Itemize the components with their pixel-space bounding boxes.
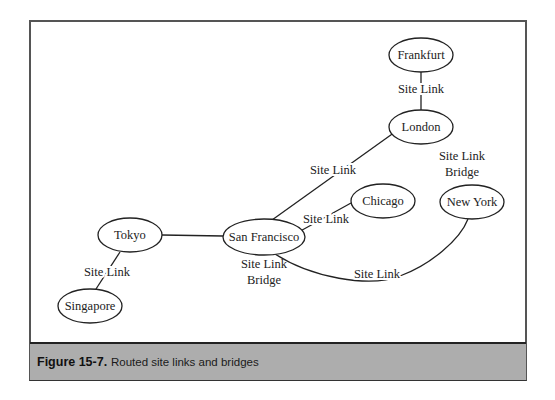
label-new-york: New York (447, 195, 498, 209)
edge-label-sf-london: Site Link (310, 163, 357, 177)
label-london: London (402, 120, 442, 134)
label-tokyo: Tokyo (114, 228, 146, 242)
label-singapore: Singapore (65, 299, 116, 313)
figure-caption-bar: Figure 15-7. Routed site links and bridg… (30, 342, 526, 380)
edge-label-tokyo-singapore: Site Link (84, 265, 131, 279)
london-bridge-label-line2: Bridge (445, 165, 479, 179)
edge-label-frankfurt-london: Site Link (398, 82, 445, 96)
label-san-francisco: San Francisco (229, 230, 299, 244)
edge-label-sf-newyork: Site Link (354, 267, 401, 281)
london-bridge-label-line1: Site Link (439, 149, 486, 163)
figure-number: Figure 15-7. (37, 355, 111, 369)
figure-caption: Routed site links and bridges (111, 356, 259, 368)
edge-label-sf-chicago: Site Link (303, 212, 350, 226)
label-chicago: Chicago (362, 194, 404, 208)
site-link-diagram: Frankfurt London Chicago New York Tokyo … (0, 0, 555, 400)
edge-tokyo-sf (162, 235, 223, 236)
sf-bridge-label-line2: Bridge (247, 273, 281, 287)
sf-bridge-label-line1: Site Link (241, 257, 288, 271)
label-frankfurt: Frankfurt (397, 48, 445, 62)
